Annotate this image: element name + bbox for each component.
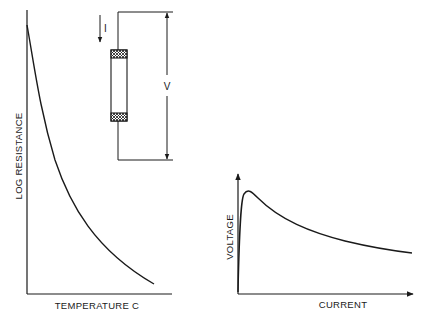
- bottom-lead-wire: [118, 121, 173, 160]
- right-x-label: CURRENT: [319, 299, 368, 310]
- top-lead-wire: [118, 12, 173, 50]
- thermistor-inset: I V: [100, 12, 173, 160]
- thermistor-figure: TEMPERATURE C LOG RESISTANCE I V CURRENT…: [0, 0, 421, 318]
- bottom-contact-hatch: [111, 113, 127, 121]
- voltage-symbol: V: [164, 81, 171, 92]
- thermistor-body: [111, 50, 127, 121]
- left-y-label: LOG RESISTANCE: [13, 113, 24, 200]
- left-x-label: TEMPERATURE C: [55, 300, 139, 311]
- current-symbol: I: [104, 23, 107, 34]
- voltage-curve: [238, 191, 412, 292]
- right-y-label: VOLTAGE: [224, 214, 235, 260]
- resistance-curve: [27, 25, 154, 284]
- top-contact-hatch: [111, 50, 127, 58]
- voltage-current-plot: CURRENT VOLTAGE: [224, 174, 413, 310]
